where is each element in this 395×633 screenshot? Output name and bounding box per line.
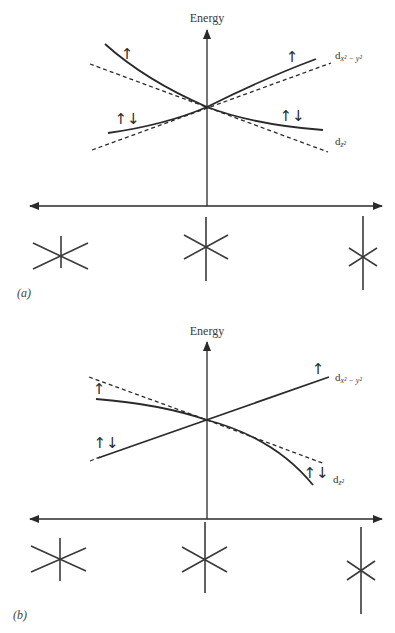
orbital-label-dz2: dz² — [333, 473, 345, 487]
right-upper-curve — [207, 59, 316, 107]
elongated-octahedron-icon — [349, 216, 377, 290]
left-upper-curve — [96, 399, 207, 420]
panel-label-b: (b) — [13, 608, 27, 622]
spin-label-right-lower: ↑↓ — [279, 107, 304, 125]
panel-label-a: (a) — [17, 286, 31, 300]
right-lower-curve — [207, 420, 313, 485]
energy-axis-label: Energy — [190, 11, 224, 25]
jahn-teller-diagram: Energy ↑ ↑↓ ↑ ↑↓ dx² − y² dz² — [0, 0, 395, 633]
compressed-octahedron-icon — [31, 538, 86, 581]
panel-a: Energy ↑ ↑↓ ↑ ↑↓ dx² − y² dz² — [17, 11, 382, 300]
spin-label-left-upper: ↑ — [121, 45, 134, 63]
dx2y2-straight-line — [98, 377, 329, 458]
octahedron-icon — [182, 522, 227, 593]
spin-label-right-upper: ↑ — [312, 360, 325, 378]
spin-label-left-lower: ↑↓ — [93, 434, 118, 452]
octahedron-icon — [184, 217, 228, 281]
linear-dz2-dashed-line-right — [207, 420, 325, 464]
linear-dz2-dashed-line-left — [89, 377, 207, 420]
spin-label-left-lower: ↑↓ — [114, 110, 139, 128]
spin-label-right-upper: ↑ — [286, 48, 299, 66]
orbital-label-dz2: dz² — [335, 135, 347, 149]
energy-axis-label: Energy — [190, 324, 224, 338]
orbital-label-dx2y2: dx² − y² — [335, 371, 362, 385]
panel-b: Energy ↑ ↑↓ ↑ ↑↓ dx² − y² dz² — [13, 324, 382, 622]
spin-label-right-lower: ↑↓ — [303, 464, 328, 482]
spin-label-left-upper: ↑ — [93, 380, 106, 398]
right-lower-curve — [207, 107, 323, 130]
elongated-octahedron-icon — [347, 527, 375, 614]
compressed-octahedron-icon — [33, 236, 88, 269]
orbital-label-dx2y2: dx² − y² — [335, 49, 362, 63]
